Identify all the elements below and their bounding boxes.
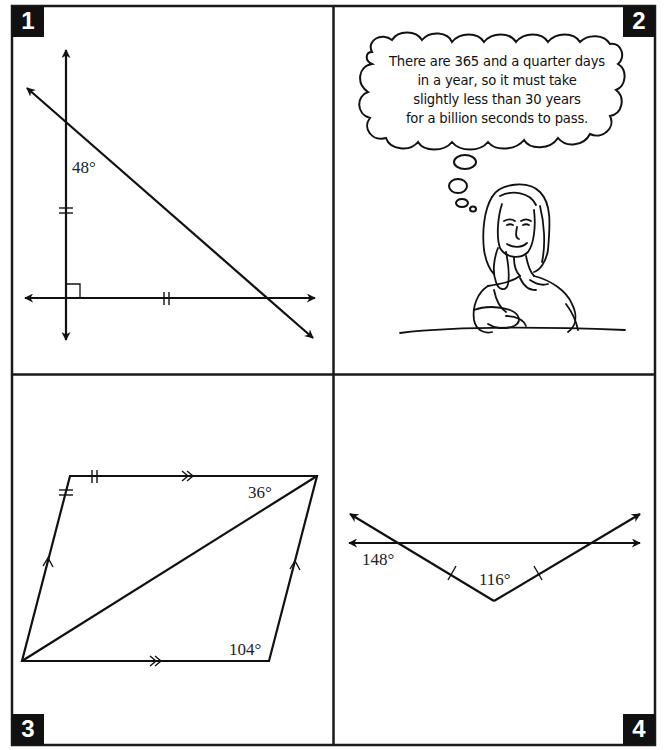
thought-line-2: in a year, so it must take (372, 71, 622, 90)
panel-1-angle-label: 48° (72, 159, 96, 176)
panel-1-number-badge: 1 (12, 6, 44, 37)
panel-4-number-badge: 4 (623, 714, 655, 745)
panel-3-angle-36-label: 36° (248, 484, 272, 501)
panel-4-angle-148-label: 148° (362, 551, 394, 568)
panel-2-number-badge: 2 (623, 6, 655, 37)
thought-bubble-text: There are 365 and a quarter days in a ye… (372, 52, 622, 128)
panel-4-angle-116-label: 116° (479, 571, 511, 588)
panel-3-angle-104-label: 104° (229, 641, 261, 658)
panel-1-figure (25, 50, 315, 340)
panel-3-number-badge: 3 (12, 714, 44, 745)
thought-line-1: There are 365 and a quarter days (372, 52, 622, 71)
thinking-woman-illustration (400, 185, 625, 333)
thought-line-3: slightly less than 30 years (372, 90, 622, 109)
panel-3-figure (22, 470, 317, 666)
thought-line-4: for a billion seconds to pass. (372, 109, 622, 128)
worksheet: 1 2 3 4 48° There are 365 and a quarter … (0, 0, 667, 750)
